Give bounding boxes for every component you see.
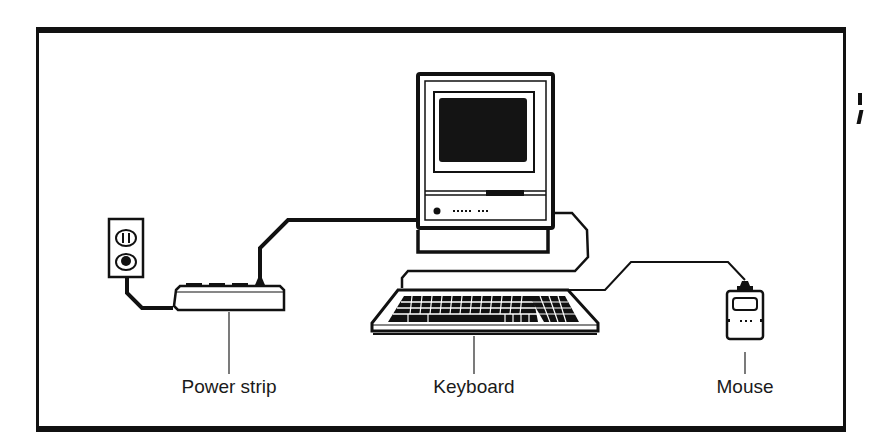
outlet-icon xyxy=(109,219,143,277)
keyboard-icon xyxy=(372,290,598,334)
label-power-strip: Power strip xyxy=(181,376,276,398)
power-strip-icon xyxy=(174,278,284,310)
label-mouse: Mouse xyxy=(716,376,773,398)
mouse-icon xyxy=(727,281,763,339)
label-keyboard: Keyboard xyxy=(433,376,514,398)
keyboard-to-mouse-cable xyxy=(569,262,745,290)
strip-to-computer-cable xyxy=(260,220,418,280)
computer-icon xyxy=(418,74,553,252)
